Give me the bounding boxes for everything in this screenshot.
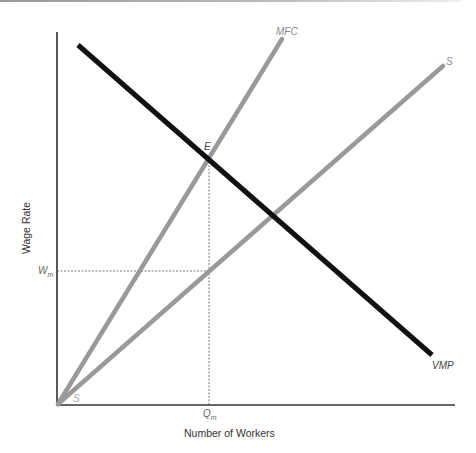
equilibrium-label: E xyxy=(204,141,211,152)
qm-tick-label: Qm xyxy=(203,408,217,421)
mfc-label: MFC xyxy=(276,26,298,37)
qm-main: Q xyxy=(203,408,211,419)
chart-canvas xyxy=(0,0,476,453)
s-top-label: S xyxy=(446,56,453,67)
x-axis-title: Number of Workers xyxy=(184,427,275,439)
vmp-curve xyxy=(78,45,432,355)
mfc-curve xyxy=(58,39,282,404)
s-origin-label: S xyxy=(73,393,80,404)
qm-sub: m xyxy=(211,414,217,421)
supply-curve xyxy=(58,66,443,404)
wm-tick-label: Wm xyxy=(38,265,53,278)
y-axis-title: Wage Rate xyxy=(20,198,32,258)
vmp-label: VMP xyxy=(432,360,454,371)
wm-sub: m xyxy=(47,271,53,278)
